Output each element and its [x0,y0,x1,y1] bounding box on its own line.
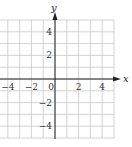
y-axis-label: y [50,2,57,13]
x-tick-label: 2 [76,82,82,92]
y-tick-label: 2 [46,50,52,60]
y-tick-label: 4 [46,27,52,37]
x-tick-label: 4 [99,82,105,92]
x-axis-label: x [123,73,129,84]
x-tick-label: −2 [25,82,38,92]
y-tick-label: −2 [39,98,52,108]
x-tick-label: −4 [1,82,15,92]
coordinate-plane: x y −4−2024 42−2−4 [0,0,132,147]
y-axis-arrow-icon [53,12,58,20]
y-tick-label: −4 [39,121,53,131]
x-axis-arrow-icon [113,77,121,82]
axes [0,12,121,139]
x-tick-label: 0 [48,82,54,92]
